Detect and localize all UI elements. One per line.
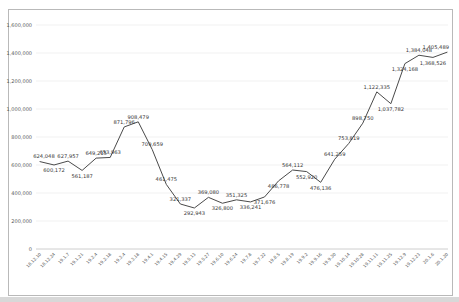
data-point-label: 1,368,526 [420, 60, 446, 66]
chart-window: 0200,000400,000600,000800,0001,000,0001,… [0, 0, 459, 302]
line-chart: 0200,000400,000600,000800,0001,000,0001,… [0, 0, 459, 302]
data-point-label: 1,122,335 [364, 84, 390, 90]
data-point-label: 561,187 [71, 173, 92, 179]
y-tick-label: 1,400,000 [7, 50, 32, 56]
data-point-label: 369,080 [198, 189, 219, 195]
y-tick-label: 1,000,000 [7, 106, 32, 112]
data-point-label: 653,963 [99, 149, 120, 155]
data-point-label: 1,405,489 [423, 44, 449, 50]
data-point-label: 641,259 [324, 151, 345, 157]
data-point-label: 321,337 [170, 196, 191, 202]
data-point-label: 292,943 [184, 210, 205, 216]
data-point-label: 371,676 [254, 199, 275, 205]
y-tick-label: 800,000 [11, 134, 32, 140]
data-point-label: 627,957 [57, 153, 78, 159]
data-point-label: 600,172 [43, 167, 64, 173]
data-point-label: 476,136 [310, 185, 331, 191]
y-tick-label: 1,200,000 [7, 78, 32, 84]
y-tick-label: 200,000 [11, 218, 32, 224]
data-point-label: 1,037,782 [378, 106, 404, 112]
y-tick-label: 1,600,000 [7, 22, 32, 28]
y-tick-label: 600,000 [11, 162, 32, 168]
data-point-label: 552,920 [296, 174, 317, 180]
data-point-label: 486,778 [268, 183, 289, 189]
data-point-label: 908,479 [128, 114, 149, 120]
window-bottom-edge [0, 297, 459, 302]
data-point-label: 624,048 [33, 153, 54, 159]
data-point-label: 871,796 [113, 119, 134, 125]
data-point-label: 898,750 [352, 115, 373, 121]
data-point-label: 753,819 [338, 135, 359, 141]
data-point-label: 1,324,168 [392, 66, 418, 72]
data-point-label: 461,475 [156, 176, 177, 182]
data-point-label: 351,325 [226, 192, 247, 198]
data-point-label: 326,800 [212, 205, 233, 211]
y-tick-label: 400,000 [11, 190, 32, 196]
data-point-label: 709,659 [142, 141, 163, 147]
data-point-label: 564,112 [282, 162, 303, 168]
y-tick-label: 0 [29, 246, 32, 252]
